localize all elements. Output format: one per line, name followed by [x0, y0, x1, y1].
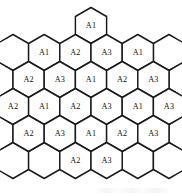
hex-label-a2: A2: [70, 48, 80, 57]
hex-label-a3: A3: [101, 156, 111, 165]
hex-grid-svg: A1A1A2A3A1A2A3A1A2A3A2A1A2A3A1A3A2A3A1A2…: [0, 0, 182, 196]
hex-label-a1: A1: [133, 48, 143, 57]
hex-label-a3: A3: [101, 102, 111, 111]
hex-label-a2: A2: [8, 102, 18, 111]
hex-label-a1: A1: [133, 102, 143, 111]
hex-label-a2: A2: [117, 129, 127, 138]
hex-label-a2: A2: [23, 75, 33, 84]
hex-label-a3: A3: [101, 48, 111, 57]
hex-label-a1: A1: [39, 48, 49, 57]
hex-label-a1: A1: [86, 21, 96, 30]
hex-label-a2: A2: [23, 129, 33, 138]
hex-label-a1: A1: [86, 129, 96, 138]
hex-label-a3: A3: [55, 129, 65, 138]
hex-label-a1: A1: [86, 75, 96, 84]
hex-label-a3: A3: [148, 129, 158, 138]
hex-label-a1: A1: [39, 102, 49, 111]
hex-label-a2: A2: [70, 102, 80, 111]
hex-label-a2: A2: [70, 156, 80, 165]
hex-label-a2: A2: [117, 75, 127, 84]
hex-label-a3: A3: [148, 75, 158, 84]
hex-label-a3: A3: [164, 102, 174, 111]
hex-label-a3: A3: [55, 75, 65, 84]
figure-root: A1A1A2A3A1A2A3A1A2A3A2A1A2A3A1A3A2A3A1A2…: [0, 0, 182, 196]
